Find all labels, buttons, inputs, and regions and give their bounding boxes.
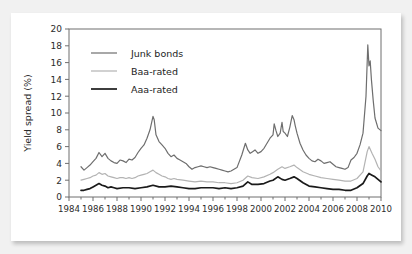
y-tick-label: 14 [51,75,63,85]
x-tick-label: 1992 [154,204,176,214]
plot-frame [69,29,381,197]
chart-canvas: 0246810121416182019841986198819901992199… [11,13,401,241]
x-tick-label: 2010 [370,204,392,214]
y-tick-label: 8 [56,125,62,135]
legend-label-3: Aaa-rated [131,84,178,95]
screenshot-root: 0246810121416182019841986198819901992199… [0,0,412,254]
x-tick-label: 1994 [178,204,200,214]
y-tick-label: 0 [56,192,62,202]
x-tick-label: 1984 [58,204,80,214]
y-tick-label: 16 [51,58,63,68]
x-tick-label: 1986 [82,204,104,214]
y-tick-label: 2 [56,176,62,186]
y-tick-label: 6 [56,142,62,152]
legend-label-2: Baa-rated [131,66,178,77]
x-tick-label: 2004 [298,204,320,214]
x-tick-label: 2006 [322,204,344,214]
y-tick-label: 12 [51,92,62,102]
x-tick-label: 1996 [202,204,224,214]
figure-card: 0246810121416182019841986198819901992199… [11,13,401,241]
y-tick-label: 4 [56,159,62,169]
x-tick-label: 1988 [106,204,128,214]
x-tick-label: 1990 [130,204,152,214]
yield-spread-chart: 0246810121416182019841986198819901992199… [11,13,401,241]
y-axis-title: Yield spread (%) [22,74,33,152]
y-tick-label: 20 [51,24,63,34]
x-tick-label: 2000 [250,204,272,214]
x-tick-label: 2008 [346,204,368,214]
y-tick-label: 18 [51,41,63,51]
legend-label-1: Junk bonds [130,48,183,59]
x-tick-label: 1998 [226,204,248,214]
y-tick-label: 10 [51,108,63,118]
x-tick-label: 2002 [274,204,296,214]
